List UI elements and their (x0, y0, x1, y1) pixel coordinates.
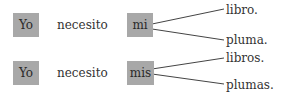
determiner-text: mis (130, 66, 151, 80)
determiner-box-row2: mis (127, 61, 154, 85)
noun-text: libros. (226, 51, 264, 65)
noun-text: plumas. (226, 78, 274, 92)
subject-text: Yo (19, 66, 33, 80)
determiner-box-row1: mi (127, 13, 153, 37)
verb-text-row1: necesito (57, 18, 108, 32)
verb-text-row2: necesito (57, 66, 108, 80)
noun-text: libro. (226, 3, 258, 17)
determiner-text: mi (132, 18, 147, 32)
subject-text: Yo (19, 18, 33, 32)
noun-text: pluma. (226, 33, 268, 47)
subject-box-row2: Yo (13, 61, 39, 85)
subject-box-row1: Yo (13, 13, 39, 37)
